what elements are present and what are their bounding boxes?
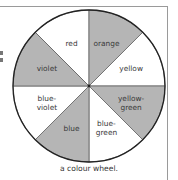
label-blue-violet: blue-violet (37, 94, 58, 112)
label-blue-green: blue-green (96, 119, 118, 137)
figure-caption: a colour wheel. (0, 164, 178, 173)
label-blue: blue (64, 124, 80, 133)
label-yellow-green: yellow-green (118, 94, 145, 112)
colour-wheel: redorangeyellowyellow-greenblue-greenblu… (0, 0, 178, 180)
wheel-sectors (13, 10, 165, 162)
label-orange: orange (93, 39, 119, 48)
label-violet: violet (37, 64, 58, 73)
label-red: red (65, 39, 77, 48)
center-dot (88, 85, 91, 88)
label-yellow: yellow (119, 64, 143, 73)
